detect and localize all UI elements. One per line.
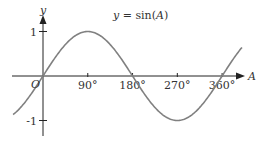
sine-chart: 1-1 90°180°270°360° y A O y = sin(A) (0, 0, 263, 144)
x-axis-label: A (247, 70, 256, 83)
y-tick-label: 1 (30, 26, 37, 39)
x-axis-arrow-icon (236, 73, 245, 80)
title-var: A (155, 9, 164, 22)
title-eq: = sin( (119, 9, 156, 22)
chart-title: y = sin(A) (112, 9, 168, 22)
origin-label: O (31, 78, 40, 91)
y-axis-label: y (39, 4, 47, 17)
x-tick-label: 270° (164, 79, 191, 92)
title-close: ) (164, 9, 168, 22)
x-tick-label: 90° (78, 79, 98, 92)
y-tick-label: -1 (26, 115, 37, 128)
